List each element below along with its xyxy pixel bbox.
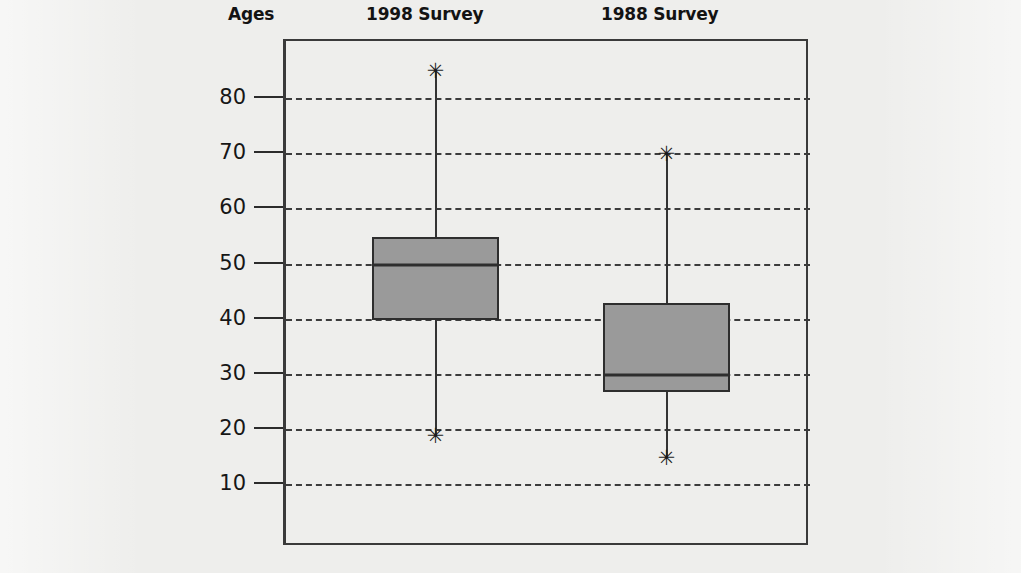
- box-iqr: [372, 237, 499, 320]
- boxplot-1998-survey: ✳✳: [372, 41, 499, 547]
- median-line: [372, 263, 499, 266]
- minimum-marker-icon: ✳: [427, 427, 445, 445]
- maximum-marker-icon: ✳: [658, 145, 676, 163]
- y-axis-tick-label: 30: [219, 361, 246, 385]
- gridline: [286, 429, 810, 431]
- gridline: [286, 319, 810, 321]
- column-heading-1998-survey: 1998 Survey: [366, 4, 483, 24]
- plot-frame: ✳✳✳✳: [284, 39, 808, 545]
- gridline: [286, 98, 810, 100]
- gridline: [286, 153, 810, 155]
- y-axis-tick-label: 80: [219, 85, 246, 109]
- median-line: [603, 374, 730, 377]
- boxplot-1988-survey: ✳✳: [603, 41, 730, 547]
- upper-whisker: [435, 71, 437, 237]
- y-axis-tick-label: 70: [219, 140, 246, 164]
- minimum-marker-icon: ✳: [658, 449, 676, 467]
- y-axis-tick-label: 10: [219, 471, 246, 495]
- y-axis-tick-mark: [254, 151, 284, 153]
- y-axis-tick-mark: [254, 96, 284, 98]
- column-heading-1988-survey: 1988 Survey: [601, 4, 718, 24]
- y-axis-tick-mark: [254, 482, 284, 484]
- y-axis-tick-mark: [254, 372, 284, 374]
- gridline: [286, 374, 810, 376]
- y-axis-tick-label: 60: [219, 195, 246, 219]
- maximum-marker-icon: ✳: [427, 62, 445, 80]
- y-axis-tick-mark: [254, 262, 284, 264]
- y-axis-tick-mark: [254, 317, 284, 319]
- y-axis-tick-label: 20: [219, 416, 246, 440]
- gridline: [286, 484, 810, 486]
- y-axis-tick-mark: [254, 427, 284, 429]
- y-axis-tick-label: 50: [219, 251, 246, 275]
- box-iqr: [603, 303, 730, 391]
- y-axis-tick-labels: 8070605040302010: [0, 0, 284, 573]
- gridline: [286, 208, 810, 210]
- lower-whisker: [435, 320, 437, 436]
- gridline: [286, 264, 810, 266]
- page-canvas: Ages 1998 Survey 1988 Survey 80706050403…: [0, 0, 1021, 573]
- y-axis-tick-mark: [254, 206, 284, 208]
- upper-whisker: [666, 154, 668, 303]
- y-axis-tick-label: 40: [219, 306, 246, 330]
